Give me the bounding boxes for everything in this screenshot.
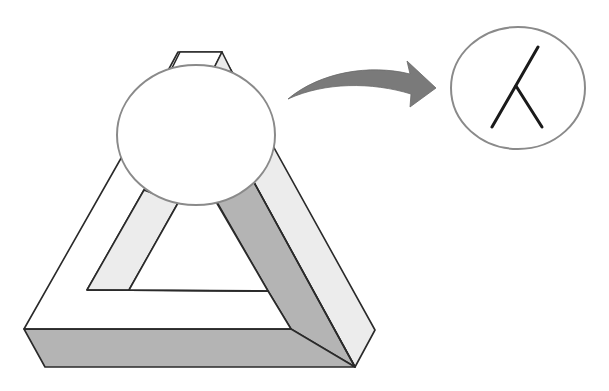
curved-arrow-icon (288, 61, 436, 107)
diagram-canvas (0, 0, 609, 391)
occluding-ellipse (117, 65, 275, 205)
penrose-diagram (0, 0, 609, 391)
inner-bottom-edge (87, 290, 268, 291)
